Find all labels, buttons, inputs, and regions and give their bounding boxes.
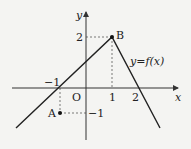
point-a-dot xyxy=(58,111,62,115)
tick-x-1: 1 xyxy=(109,92,116,103)
y-axis-label: y xyxy=(76,10,82,21)
x-axis-label: x xyxy=(175,92,181,103)
tick-x-2: 2 xyxy=(132,92,139,103)
graph-canvas xyxy=(0,0,191,149)
tick-y-neg1: −1 xyxy=(88,108,104,119)
tick-x-neg1: −1 xyxy=(44,77,60,88)
function-label: y=f(x) xyxy=(130,56,164,67)
origin-label: O xyxy=(72,92,81,103)
point-b-label: B xyxy=(116,30,124,41)
point-a-label: A xyxy=(48,108,56,119)
point-b-dot xyxy=(110,35,114,39)
tick-y-2: 2 xyxy=(76,32,83,43)
graph-diagram: y x O −1 1 2 2 −1 B A y=f(x) xyxy=(0,0,191,149)
